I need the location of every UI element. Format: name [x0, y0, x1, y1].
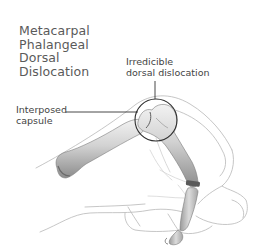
middle-phalanx-bone: [180, 180, 200, 231]
medical-illustration: Metacarpal Phalangeal Dorsal Dislocation…: [0, 0, 255, 247]
hand-bone-drawing: [0, 0, 255, 247]
metacarpal-bone: [56, 119, 145, 178]
distal-phalanx-bone: [165, 230, 183, 245]
